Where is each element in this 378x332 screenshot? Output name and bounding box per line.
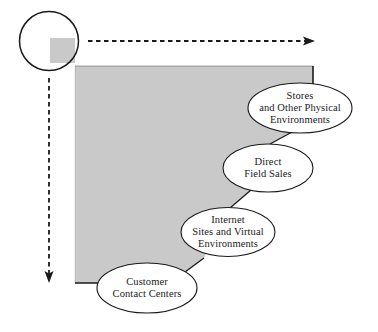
node-direct-field-sales-ellipse[interactable] — [223, 144, 313, 192]
diagram-svg — [0, 0, 378, 332]
node-internet-sites-ellipse[interactable] — [181, 208, 275, 257]
node-customer-contact-centers-ellipse[interactable] — [97, 263, 197, 313]
node-stores-ellipse[interactable] — [248, 83, 352, 133]
diagram-canvas: Stores and Other Physical Environments D… — [0, 0, 378, 332]
